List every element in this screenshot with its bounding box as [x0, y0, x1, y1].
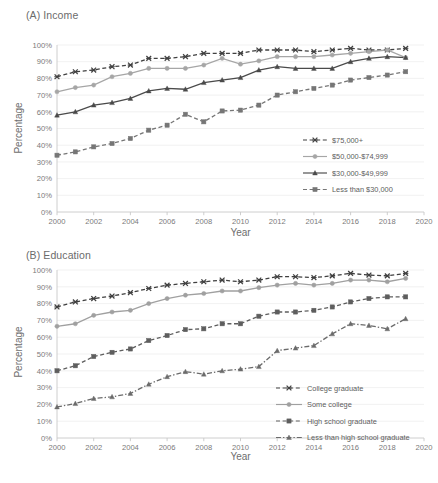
x-marker [275, 48, 280, 53]
legend-label: High school graduate [307, 417, 377, 426]
circle-marker [147, 302, 151, 306]
square-marker [257, 103, 261, 107]
circle-marker [313, 154, 317, 158]
square-marker [312, 86, 316, 90]
square-marker [367, 75, 371, 79]
circle-marker [202, 63, 206, 67]
square-marker [404, 295, 408, 299]
y-tick-label: 0% [41, 434, 52, 443]
square-marker [349, 78, 353, 82]
square-marker [73, 364, 77, 368]
x-marker [330, 48, 335, 53]
circle-marker [367, 50, 371, 54]
circle-marker [128, 71, 132, 75]
circle-marker [404, 276, 408, 280]
x-tick-label: 2000 [49, 217, 66, 226]
figure-caption-partial [0, 474, 438, 483]
series-line [57, 297, 406, 371]
x-tick-label: 2016 [342, 443, 359, 452]
y-tick-label: 70% [37, 91, 52, 100]
x-tick-label: 2002 [85, 217, 102, 226]
x-tick-label: 2002 [85, 443, 102, 452]
x-marker [164, 56, 169, 61]
circle-marker [165, 296, 169, 300]
y-tick-label: 50% [37, 124, 52, 133]
square-marker [110, 350, 114, 354]
x-marker [201, 51, 206, 56]
x-marker [293, 48, 298, 53]
y-tick-label: 40% [37, 141, 52, 150]
x-tick-label: 2006 [159, 443, 176, 452]
y-tick-label: 90% [37, 57, 52, 66]
circle-marker [349, 278, 353, 282]
square-marker [220, 109, 224, 113]
x-marker [311, 49, 316, 54]
triangle-marker [201, 372, 206, 377]
y-tick-label: 80% [37, 74, 52, 83]
x-tick-label: 2014 [305, 443, 322, 452]
x-marker [183, 281, 188, 286]
square-marker [55, 369, 59, 373]
x-tick-label: 2014 [305, 217, 322, 226]
square-marker [202, 120, 206, 124]
y-tick-label: 0% [41, 208, 52, 217]
x-marker [256, 278, 261, 283]
chart-panel-education: (B) Education 0%10%20%30%40%50%60%70%80%… [0, 240, 438, 483]
circle-marker [92, 313, 96, 317]
legend-label: College graduate [307, 384, 363, 393]
square-marker [330, 83, 334, 87]
y-tick-label: 100% [33, 41, 53, 50]
square-marker [313, 187, 317, 191]
square-marker [275, 93, 279, 97]
y-tick-label: 60% [37, 108, 52, 117]
square-marker [147, 338, 151, 342]
x-marker [73, 69, 78, 74]
x-marker [219, 51, 224, 56]
x-tick-label: 2008 [195, 443, 212, 452]
circle-marker [92, 83, 96, 87]
legend-label: $75,000+ [332, 136, 363, 145]
square-marker [183, 112, 187, 116]
x-marker [109, 64, 114, 69]
x-tick-label: 2018 [379, 217, 396, 226]
square-marker [202, 327, 206, 331]
x-tick-label: 2006 [159, 217, 176, 226]
square-marker [367, 296, 371, 300]
y-tick-label: 20% [37, 174, 52, 183]
y-tick-label: 90% [37, 283, 52, 292]
x-marker [238, 279, 243, 284]
x-marker [275, 274, 280, 279]
legend-label: Less than high school graduate [307, 433, 410, 442]
y-tick-label: 40% [37, 367, 52, 376]
circle-marker [238, 62, 242, 66]
x-marker [348, 271, 353, 276]
square-marker [128, 347, 132, 351]
circle-marker [349, 51, 353, 55]
series-line [57, 319, 406, 407]
square-marker [404, 70, 408, 74]
y-tick-label: 70% [37, 316, 52, 325]
x-marker [91, 68, 96, 73]
x-marker [146, 56, 151, 61]
x-marker [286, 386, 291, 391]
circle-marker [183, 293, 187, 297]
circle-marker [73, 85, 77, 89]
circle-marker [312, 55, 316, 59]
legend-label: Some college [307, 400, 352, 409]
x-marker [183, 54, 188, 59]
square-marker [257, 314, 261, 318]
triangle-marker [403, 316, 408, 321]
y-tick-label: 20% [37, 400, 52, 409]
y-tick-label: 80% [37, 299, 52, 308]
circle-marker [275, 283, 279, 287]
x-marker [238, 51, 243, 56]
circle-marker [110, 75, 114, 79]
x-marker [219, 278, 224, 283]
circle-marker [238, 289, 242, 293]
x-marker [311, 275, 316, 280]
y-tick-label: 30% [37, 383, 52, 392]
circle-marker [183, 66, 187, 70]
square-marker [220, 322, 224, 326]
square-marker [55, 153, 59, 157]
x-tick-label: 2020 [416, 217, 433, 226]
